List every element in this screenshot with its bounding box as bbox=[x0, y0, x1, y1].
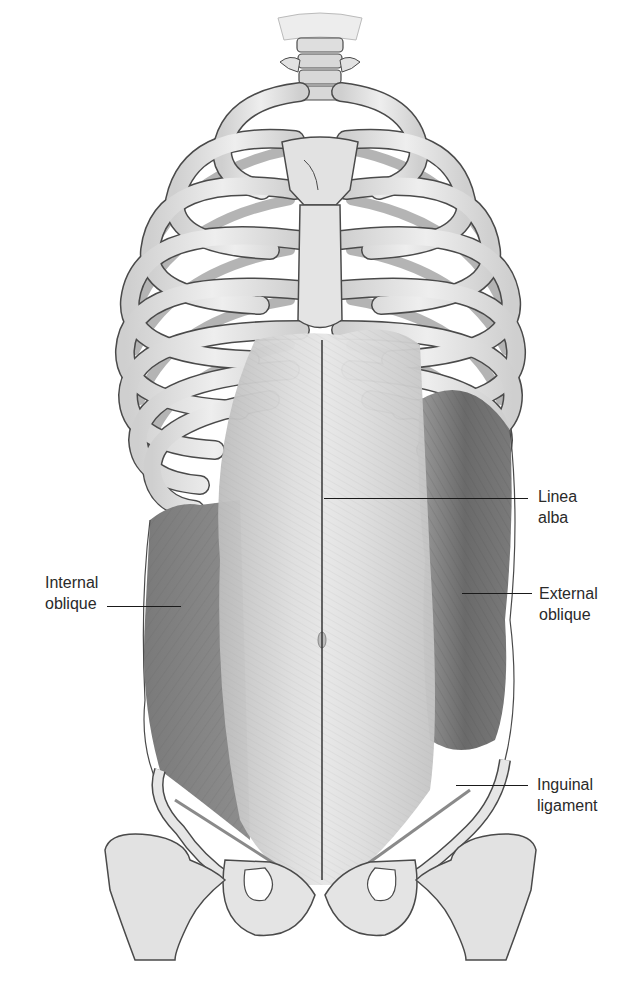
label-external-oblique: External oblique bbox=[539, 583, 598, 625]
label-inguinal-ligament: Inguinal ligament bbox=[537, 774, 597, 816]
label-internal-oblique: Internal oblique bbox=[45, 572, 98, 614]
label-external-oblique-line1: External bbox=[539, 583, 598, 604]
label-internal-oblique-line1: Internal bbox=[45, 572, 98, 593]
label-linea-alba: Linea alba bbox=[538, 486, 577, 528]
label-inguinal-ligament-line1: Inguinal bbox=[537, 774, 597, 795]
label-internal-oblique-line2: oblique bbox=[45, 593, 98, 614]
inguinal-ligament-leader bbox=[456, 785, 528, 786]
external-oblique-leader bbox=[462, 593, 532, 594]
internal-oblique-leader bbox=[107, 606, 181, 607]
linea-alba-leader bbox=[324, 498, 528, 499]
label-linea-alba-line2: alba bbox=[538, 507, 577, 528]
right-femur bbox=[416, 834, 536, 960]
left-femur bbox=[105, 834, 225, 960]
label-linea-alba-line1: Linea bbox=[538, 486, 577, 507]
label-inguinal-ligament-line2: ligament bbox=[537, 795, 597, 816]
label-external-oblique-line2: oblique bbox=[539, 604, 598, 625]
